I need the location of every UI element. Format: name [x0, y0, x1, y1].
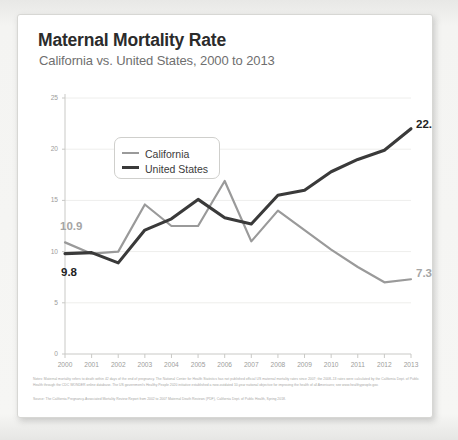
data-label-california-2013: 7.3 [416, 267, 432, 279]
legend-item-united-states[interactable]: United States [122, 159, 208, 173]
chart-legend: California United States [114, 137, 220, 179]
x-tick-label: 2005 [185, 361, 211, 368]
x-tick-label: 2007 [238, 361, 264, 368]
x-tick-label: 2011 [345, 361, 371, 368]
data-label-united-states-2013: 22.0 [416, 118, 433, 130]
x-tick-label: 2002 [105, 361, 131, 368]
x-tick-label: 2006 [212, 361, 238, 368]
y-tick-label: 15 [44, 196, 58, 203]
chart-source: Source: The California Pregnancy-Associa… [33, 396, 419, 402]
x-tick-label: 2004 [158, 361, 184, 368]
data-label-california-2000: 10.9 [60, 220, 82, 232]
x-tick-label: 2012 [371, 361, 397, 368]
chart-card: Maternal Mortality Rate California vs. U… [17, 14, 433, 418]
screenshot-root: Maternal Mortality Rate California vs. U… [0, 0, 458, 440]
x-tick-label: 2000 [52, 361, 78, 368]
legend-label-california: California [145, 148, 189, 160]
legend-swatch-united-states-icon [122, 166, 139, 169]
x-tick-label: 2003 [132, 361, 158, 368]
y-tick-label: 0 [44, 350, 58, 357]
y-tick-label: 5 [44, 299, 58, 306]
x-tick-label: 2013 [398, 361, 424, 368]
x-tick-label: 2009 [292, 361, 318, 368]
y-tick-label: 25 [44, 94, 58, 101]
line-chart [18, 15, 432, 417]
x-tick-label: 2001 [79, 361, 105, 368]
y-tick-label: 10 [44, 248, 58, 255]
legend-swatch-california-icon [122, 152, 139, 154]
y-tick-label: 20 [44, 145, 58, 152]
data-label-united-states-2000: 9.8 [61, 266, 77, 278]
x-tick-label: 2008 [265, 361, 291, 368]
x-tick-label: 2010 [318, 361, 344, 368]
series-line-california [65, 181, 411, 282]
legend-label-united-states: United States [145, 163, 208, 175]
chart-notes: Notes: Maternal mortality refers to deat… [33, 376, 419, 389]
legend-item-california[interactable]: California [122, 144, 189, 158]
